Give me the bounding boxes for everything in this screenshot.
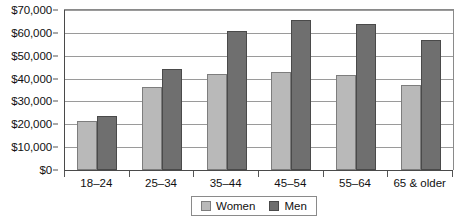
y-tick-label: $10,000 — [11, 141, 52, 153]
bar-women-3 — [207, 74, 227, 170]
bar-group — [65, 10, 130, 170]
legend-label-men: Men — [284, 200, 306, 212]
x-tick-label: 45–54 — [274, 177, 306, 189]
bar-group — [130, 10, 195, 170]
bar-women-4 — [271, 72, 291, 170]
y-tick-mark — [53, 170, 58, 171]
y-tick-mark — [53, 55, 58, 56]
bar-men-4 — [291, 20, 311, 170]
legend-item-women: Women — [201, 200, 255, 212]
y-tick-label: $60,000 — [11, 27, 52, 39]
bar-group — [324, 10, 389, 170]
chart-legend: Women Men — [191, 196, 317, 216]
plot-frame-right — [453, 9, 454, 170]
bar-chart: $0$10,000$20,000$30,000$40,000$50,000$60… — [0, 0, 462, 220]
bar-women-2 — [142, 87, 162, 170]
y-tick-mark — [53, 78, 58, 79]
bar-group — [259, 10, 324, 170]
x-tick-label: 35–44 — [210, 177, 242, 189]
x-tick-label: 25–34 — [145, 177, 177, 189]
y-tick-label: $50,000 — [11, 50, 52, 62]
y-tick-label: $0 — [39, 164, 52, 176]
y-tick-mark — [53, 32, 58, 33]
bar-men-1 — [97, 116, 117, 170]
plot-area — [64, 10, 453, 171]
bar-women-5 — [336, 75, 356, 170]
y-tick-mark — [53, 124, 58, 125]
bar-women-1 — [77, 121, 97, 170]
bar-men-2 — [162, 69, 182, 170]
legend-swatch-women-icon — [201, 201, 211, 211]
y-tick-label: $40,000 — [11, 73, 52, 85]
x-tick-label: 18–24 — [80, 177, 112, 189]
y-tick-label: $20,000 — [11, 118, 52, 130]
x-tick-label: 65 & older — [393, 177, 445, 189]
x-tick-label: 55–64 — [339, 177, 371, 189]
legend-label-women: Women — [216, 200, 255, 212]
legend-item-men: Men — [269, 200, 306, 212]
bar-men-5 — [356, 24, 376, 170]
legend-swatch-men-icon — [269, 201, 279, 211]
bars-layer — [65, 10, 453, 170]
y-tick-mark — [53, 101, 58, 102]
bar-group — [194, 10, 259, 170]
bar-group — [388, 10, 453, 170]
x-tick-mark — [452, 171, 453, 177]
x-axis: 18–2425–3435–4445–5455–6465 & older — [64, 177, 452, 195]
y-tick-label: $30,000 — [11, 95, 52, 107]
bar-women-6 — [401, 85, 421, 170]
y-tick-label: $70,000 — [11, 4, 52, 16]
y-axis: $0$10,000$20,000$30,000$40,000$50,000$60… — [0, 0, 58, 180]
y-tick-mark — [53, 10, 58, 11]
bar-men-6 — [421, 40, 441, 170]
y-tick-mark — [53, 147, 58, 148]
bar-men-3 — [227, 31, 247, 170]
